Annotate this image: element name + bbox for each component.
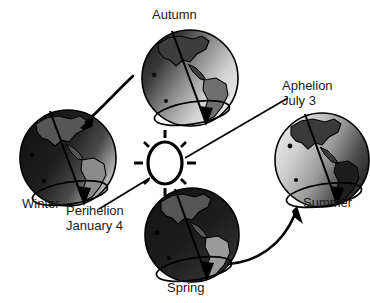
- label-spring: Spring: [167, 281, 205, 295]
- diagram-canvas: [0, 0, 370, 303]
- globe-spring: [145, 188, 239, 286]
- arrow-autumn-to-winter: [80, 76, 133, 130]
- label-perihelion: Perihelion January 4: [66, 204, 124, 233]
- label-summer: Summer: [303, 196, 352, 210]
- seasons-diagram: Autumn Winter Spring Summer Aphelion Jul…: [0, 0, 370, 303]
- label-aphelion: Aphelion July 3: [282, 79, 333, 108]
- label-autumn: Autumn: [152, 8, 197, 22]
- label-aphelion-line2: July 3: [282, 94, 333, 109]
- label-perihelion-line1: Perihelion: [66, 204, 124, 219]
- label-perihelion-line2: January 4: [66, 219, 124, 234]
- arrow-spring-to-summer-head: [292, 206, 303, 224]
- globe-winter: [20, 110, 116, 210]
- globe-autumn: [142, 30, 238, 130]
- sun-disc: [148, 142, 182, 184]
- label-aphelion-line1: Aphelion: [282, 79, 333, 94]
- sun: [134, 130, 196, 196]
- label-winter: Winter: [22, 197, 60, 211]
